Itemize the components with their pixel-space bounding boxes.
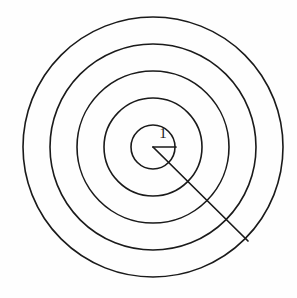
concentric-circles-diagram: 1	[0, 0, 297, 298]
unit-radius-label: 1	[159, 125, 167, 141]
figure-container: 1	[0, 0, 297, 298]
